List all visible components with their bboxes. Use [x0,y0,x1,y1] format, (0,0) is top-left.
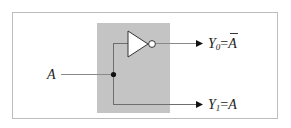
output-label-y0: Y0=A [208,36,237,52]
junction-dot [111,72,116,77]
logic-diagram: A Y0=A Y1=A [0,0,291,128]
input-label-a: A [46,67,56,82]
output-label-y1: Y1=A [208,97,237,113]
not-gate-bubble [149,41,156,48]
